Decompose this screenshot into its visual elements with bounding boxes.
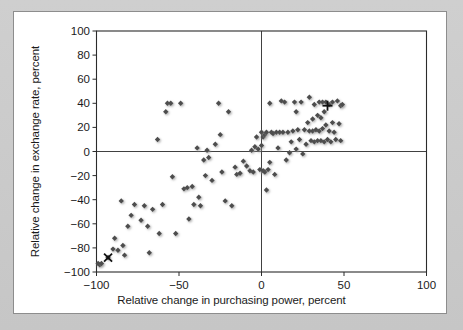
data-point	[128, 213, 133, 218]
x-tick-label: −100	[84, 279, 110, 291]
data-point	[132, 202, 137, 207]
data-point	[173, 231, 178, 236]
data-point	[204, 148, 209, 153]
x-axis-title: Relative change in purchasing power, per…	[0, 294, 463, 306]
data-point	[330, 120, 335, 125]
data-point	[147, 250, 152, 255]
data-point	[241, 158, 246, 163]
data-point	[157, 231, 162, 236]
data-point	[209, 178, 214, 183]
figure-root: −100−80−60−40−20020406080100−100−5005010…	[0, 0, 463, 330]
data-point	[285, 130, 290, 135]
data-point	[120, 243, 125, 248]
data-point	[163, 109, 168, 114]
data-point	[155, 137, 160, 142]
data-point	[178, 101, 183, 106]
data-point	[267, 160, 272, 165]
data-point	[170, 174, 175, 179]
data-point	[298, 99, 303, 104]
data-point	[284, 157, 289, 162]
data-point	[203, 173, 208, 178]
data-point	[196, 195, 201, 200]
data-point	[145, 224, 150, 229]
data-point	[323, 122, 328, 127]
data-point	[293, 109, 298, 114]
data-point	[267, 101, 272, 106]
y-tick-label: −60	[40, 218, 90, 230]
data-point	[191, 202, 196, 207]
data-point	[244, 163, 249, 168]
y-tick-label: −40	[40, 194, 90, 206]
data-point	[198, 203, 203, 208]
data-point	[125, 224, 130, 229]
data-point	[331, 130, 336, 135]
data-point	[138, 217, 143, 222]
y-tick-label: −80	[40, 242, 90, 254]
data-point	[122, 252, 127, 257]
data-point	[272, 172, 277, 177]
y-tick-label: 20	[40, 121, 90, 133]
data-point	[206, 155, 211, 160]
data-point	[310, 116, 315, 121]
data-point	[229, 203, 234, 208]
y-tick-label: −100	[40, 266, 90, 278]
data-point	[303, 142, 308, 147]
data-point	[297, 137, 302, 142]
data-point	[292, 99, 297, 104]
data-point	[254, 134, 259, 139]
data-point	[213, 142, 218, 147]
data-point	[232, 164, 237, 169]
data-point	[190, 184, 195, 189]
data-point	[168, 101, 173, 106]
data-point	[307, 95, 312, 100]
y-tick-label: 100	[40, 25, 90, 37]
x-tick-label: 0	[258, 279, 264, 291]
data-point	[302, 127, 307, 132]
y-tick-label: −20	[40, 170, 90, 182]
y-tick-label: 60	[40, 73, 90, 85]
x-tick-label: 50	[338, 279, 351, 291]
data-point	[218, 132, 223, 137]
data-point	[119, 198, 124, 203]
zero-reference-lines	[97, 31, 427, 272]
data-point	[160, 202, 165, 207]
data-point	[290, 128, 295, 133]
data-point	[293, 146, 298, 151]
data-points-layer	[95, 95, 345, 268]
data-point	[312, 102, 317, 107]
data-point	[110, 246, 115, 251]
data-point	[300, 151, 305, 156]
data-point	[194, 145, 199, 150]
data-point	[335, 98, 340, 103]
data-point	[336, 121, 341, 126]
data-point	[216, 101, 221, 106]
data-point	[226, 109, 231, 114]
y-tick-label: 40	[40, 97, 90, 109]
data-point	[326, 128, 331, 133]
data-point	[280, 130, 285, 135]
highlight-markers-layer	[104, 101, 332, 262]
data-point	[275, 145, 280, 150]
y-axis-title: Relative change in exchange rate, percen…	[28, 31, 42, 272]
data-point	[287, 150, 292, 155]
x-tick-label: 100	[417, 279, 436, 291]
data-point	[186, 216, 191, 221]
data-point	[295, 127, 300, 132]
x-tick-label: −50	[169, 279, 189, 291]
data-point	[219, 169, 224, 174]
data-point	[338, 138, 343, 143]
data-point	[112, 236, 117, 241]
y-tick-label: 0	[40, 146, 90, 158]
data-point	[289, 139, 294, 144]
marker-x	[104, 254, 112, 262]
data-point	[150, 207, 155, 212]
data-point	[264, 187, 269, 192]
data-point	[322, 109, 327, 114]
data-point	[115, 248, 120, 253]
data-point	[201, 157, 206, 162]
y-tick-label: 80	[40, 49, 90, 61]
data-point	[223, 198, 228, 203]
data-point	[333, 137, 338, 142]
data-point	[305, 120, 310, 125]
data-point	[142, 203, 147, 208]
